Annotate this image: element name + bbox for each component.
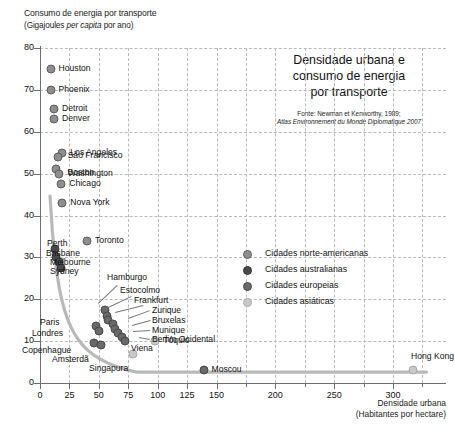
data-point-label: Londres [32,329,63,338]
x-tick-label: 125 [180,390,195,400]
data-point-label: Singapura [89,364,128,373]
heading-line2: consumo de energia [246,68,452,84]
data-point-label: Viena [131,344,153,353]
heading-line3: por transporte [246,84,452,100]
data-point[interactable] [409,366,418,375]
data-point[interactable] [94,326,103,335]
legend-swatch-icon [243,282,252,291]
heading-line1: Densidade urbana e [246,52,452,68]
data-point[interactable] [50,115,59,124]
source-line1: Fonte: Newman et Kenworthy, 1989; [246,110,452,118]
y-tick-label: 80 [14,42,34,52]
y-tick [34,341,40,342]
legend-label: Cidades norte-americanas [265,248,368,258]
data-point-label: Washington [68,169,113,178]
gridline-horizontal [40,90,446,91]
x-tick [275,383,276,389]
label-leader-line [128,310,150,319]
y-axis-title-line2-c: por ano) [101,21,133,30]
x-tick [69,383,70,389]
data-point[interactable] [83,236,92,245]
data-point-label: Chicago [69,179,101,188]
data-point-label: Frankfurt [134,296,168,305]
y-axis-title-line2-a: (Gigajoules [24,21,67,30]
data-point[interactable] [57,180,66,189]
x-tick-label: 200 [268,390,283,400]
y-axis-title: Consumo de energia por transporte (Gigaj… [24,8,156,31]
data-point-label: Bruxelas [152,316,185,325]
data-point-label: Tóquio [163,336,189,345]
data-point-label: Hong Kong [411,352,454,361]
data-point-label: Amsterdã [52,355,89,364]
chart-canvas: Consumo de energia por transporte (Gigaj… [0,0,454,443]
label-leader-line [132,320,150,326]
data-point[interactable] [46,85,55,94]
x-tick-minor [364,383,365,387]
y-tick [34,257,40,258]
gridline-horizontal [40,216,446,217]
data-point-label: Paris [40,318,60,327]
y-tick [34,299,40,300]
label-leader-line [133,330,150,332]
data-point[interactable] [199,366,208,375]
data-point[interactable] [54,169,63,178]
data-point[interactable] [97,341,106,350]
y-axis-title-line2-b: per capita [67,21,102,30]
data-point-label: Houston [59,64,91,73]
gridline-horizontal [40,48,446,49]
source-line2: Atlas Environnement du Monde Diplomatiqu… [246,118,452,126]
y-tick-label: 10 [14,335,34,345]
data-point[interactable] [120,337,129,346]
data-point[interactable] [58,198,67,207]
x-tick [99,383,100,389]
data-point[interactable] [53,152,62,161]
x-tick [158,383,159,389]
legend-label: Cidades australianas [265,264,347,274]
legend-swatch-icon [243,298,252,307]
y-tick [34,90,40,91]
x-axis-title-line1: Densidade urbana [356,398,446,409]
y-tick [34,174,40,175]
y-tick-label: 20 [14,293,34,303]
gridline-horizontal [40,132,446,133]
y-tick [34,48,40,49]
x-tick [217,383,218,389]
x-axis-title-line2: (Habitantes por hectare) [356,409,446,420]
data-point-label: Moscou [212,365,242,374]
x-tick [128,383,129,389]
y-axis-title-line2: (Gigajoules per capita por ano) [24,20,156,32]
y-tick-label: 0 [14,377,34,387]
y-tick-label: 70 [14,84,34,94]
y-tick-label: 30 [14,251,34,261]
x-tick-label: 0 [37,390,42,400]
data-point[interactable] [46,64,55,73]
x-tick-label: 100 [150,390,165,400]
data-point-label: Toronto [95,236,124,245]
chart-source: Fonte: Newman et Kenworthy, 1989; Atlas … [246,110,452,127]
legend-label: Cidades asiáticas [265,296,334,306]
y-tick [34,132,40,133]
legend-swatch-icon [243,266,252,275]
legend-swatch-icon [243,250,252,259]
data-point-label: Detroit [62,104,87,113]
data-point-label: Estocolmo [120,286,160,295]
y-tick-label: 50 [14,168,34,178]
x-tick [334,383,335,389]
y-tick [34,216,40,217]
label-leader-line [139,337,150,340]
data-point[interactable] [50,104,59,113]
data-point-label: São Francisco [68,151,123,160]
y-tick-label: 40 [14,210,34,220]
y-tick-label: 60 [14,126,34,136]
x-tick-label: 75 [123,390,133,400]
x-axis-title: Densidade urbana (Habitantes por hectare… [356,398,446,420]
x-tick-label: 50 [94,390,104,400]
data-point-label: Nova York [70,198,109,207]
label-leader-line [98,285,118,304]
x-tick [40,383,41,389]
data-point-label: Zurique [152,306,181,315]
y-axis-title-line1: Consumo de energia por transporte [24,8,156,20]
data-point-label: Phoenix [59,85,90,94]
x-tick [393,383,394,389]
data-point-label: Hamburgo [107,273,147,282]
